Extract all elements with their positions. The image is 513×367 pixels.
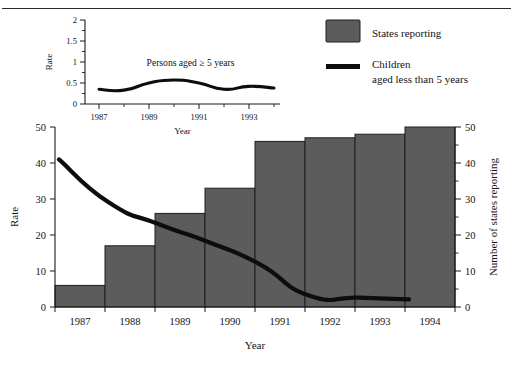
main-y-tick-labels-left: 01020304050 bbox=[36, 122, 47, 313]
x-tick-label-1990: 1990 bbox=[220, 316, 241, 327]
legend-label-children-sub: aged less than 5 years bbox=[372, 73, 468, 85]
header-rule bbox=[2, 8, 511, 9]
legend-label-children: Children bbox=[372, 58, 411, 70]
figure-panel: 00.511.52 1987198919911993 Persons aged … bbox=[0, 0, 513, 367]
y2-tick-label-20: 20 bbox=[465, 230, 476, 241]
legend-label-states-reporting: States reporting bbox=[372, 27, 442, 39]
inset-y-tick-label-2: 2 bbox=[73, 15, 77, 25]
x-tick-label-1988: 1988 bbox=[120, 316, 141, 327]
y2-tick-label-50: 50 bbox=[465, 122, 476, 133]
legend-swatch-children-line bbox=[326, 64, 360, 69]
y2-tick-label-40: 40 bbox=[465, 158, 476, 169]
y-tick-label-40: 40 bbox=[36, 158, 47, 169]
inset-y-axis-title: Rate bbox=[44, 54, 54, 71]
bar-1992 bbox=[305, 138, 355, 307]
y2-tick-label-10: 10 bbox=[465, 266, 476, 277]
main-y-ticks-left bbox=[50, 127, 55, 307]
x-tick-label-1989: 1989 bbox=[170, 316, 191, 327]
bar-1987 bbox=[55, 285, 105, 307]
main-y-tick-labels-right: 01020304050 bbox=[465, 122, 476, 313]
main-chart: 01020304050 01020304050 1987198819891990… bbox=[0, 117, 513, 367]
bar-1988 bbox=[105, 246, 155, 307]
bar-series-states-reporting bbox=[55, 127, 455, 307]
y-tick-label-0: 0 bbox=[41, 302, 46, 313]
main-y-axis-title: Rate bbox=[8, 207, 20, 227]
bar-1993 bbox=[355, 134, 405, 307]
y-tick-label-50: 50 bbox=[36, 122, 47, 133]
main-y2-axis-title: Number of states reporting bbox=[487, 157, 499, 276]
y2-tick-label-0: 0 bbox=[465, 302, 470, 313]
x-tick-label-1992: 1992 bbox=[320, 316, 341, 327]
y-tick-label-30: 30 bbox=[36, 194, 47, 205]
x-tick-label-1993: 1993 bbox=[370, 316, 391, 327]
y-tick-label-20: 20 bbox=[36, 230, 47, 241]
main-x-ticks bbox=[55, 307, 455, 312]
inset-y-tick-label-1.5: 1.5 bbox=[66, 36, 77, 46]
main-y-ticks-right bbox=[455, 127, 461, 307]
inset-y-tick-label-0.5: 0.5 bbox=[66, 78, 77, 88]
inset-y-tick-labels: 00.511.52 bbox=[66, 15, 77, 109]
inset-series-line-persons-5-and-over bbox=[99, 80, 274, 91]
bar-1994 bbox=[405, 127, 455, 307]
legend-swatch-states-reporting bbox=[326, 20, 360, 42]
inset-x-ticks bbox=[99, 104, 274, 109]
y-tick-label-10: 10 bbox=[36, 266, 47, 277]
x-tick-label-1994: 1994 bbox=[420, 316, 442, 327]
main-x-axis-title: Year bbox=[245, 339, 266, 351]
inset-y-tick-label-0: 0 bbox=[73, 99, 77, 109]
y2-tick-label-30: 30 bbox=[465, 194, 476, 205]
inset-annotation: Persons aged ≥ 5 years bbox=[147, 57, 235, 68]
inset-y-tick-label-1: 1 bbox=[73, 57, 77, 67]
x-tick-label-1991: 1991 bbox=[270, 316, 291, 327]
bar-1990 bbox=[205, 188, 255, 307]
x-tick-label-1987: 1987 bbox=[70, 316, 91, 327]
main-x-tick-labels: 19871988198919901991199219931994 bbox=[70, 316, 442, 327]
legend: States reporting Children aged less than… bbox=[300, 14, 510, 94]
bar-1991 bbox=[255, 141, 305, 307]
inset-y-ticks bbox=[80, 20, 85, 104]
